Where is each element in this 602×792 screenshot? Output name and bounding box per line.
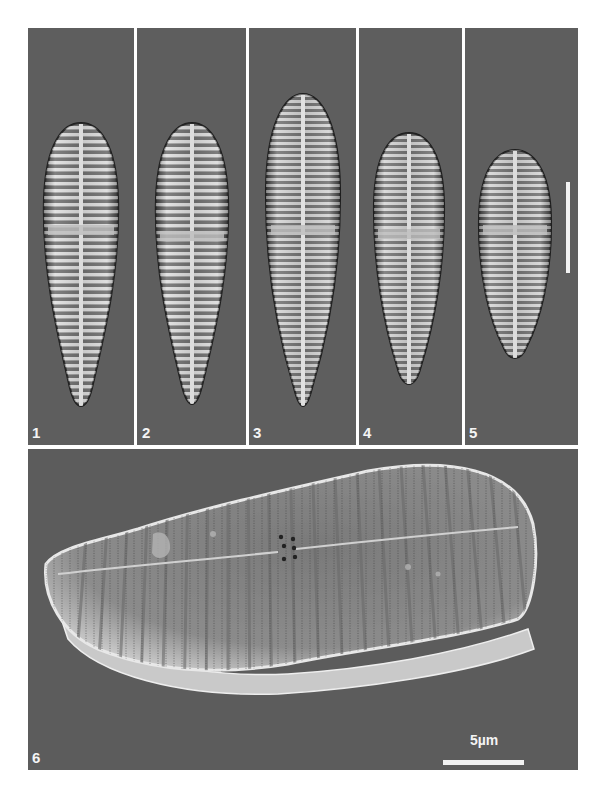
scale-bar-sem [443, 760, 524, 765]
scale-bar-lm [566, 182, 570, 273]
panel-2: 2 [137, 28, 246, 445]
panel-label-5: 5 [469, 425, 477, 440]
scale-bar-sem-label: 5µm [470, 733, 498, 747]
diatom-valve-lm-4 [359, 28, 462, 445]
panel-4: 4 [359, 28, 462, 445]
panel-3: 3 [249, 28, 356, 445]
figure-plate: 1 2 [0, 0, 602, 792]
diatom-valve-lm-1 [28, 28, 134, 445]
diatom-valve-sem [28, 449, 578, 770]
panel-5: 5 [465, 28, 578, 445]
diatom-valve-lm-3 [249, 28, 356, 445]
diatom-valve-lm-2 [137, 28, 246, 445]
panel-label-1: 1 [32, 425, 40, 440]
diatom-valve-lm-5 [465, 28, 578, 445]
panel-label-4: 4 [363, 425, 371, 440]
panel-label-2: 2 [142, 425, 150, 440]
panel-6: 5µm 6 [28, 449, 578, 770]
panel-label-6: 6 [32, 750, 40, 765]
panel-label-3: 3 [253, 425, 261, 440]
panel-1: 1 [28, 28, 134, 445]
